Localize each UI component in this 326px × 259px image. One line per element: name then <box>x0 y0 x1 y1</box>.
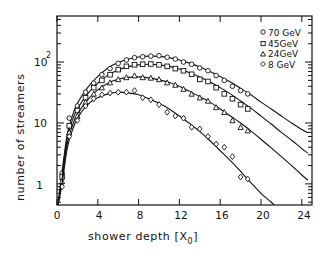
data-point <box>108 90 113 96</box>
fit-curve <box>58 92 274 205</box>
data-point <box>108 66 113 71</box>
chart: 1 10 10 2 0 4 8 12 16 20 24 shower depth… <box>0 0 326 259</box>
data-point <box>91 85 96 90</box>
data-point <box>108 72 113 77</box>
data-point <box>189 62 194 67</box>
legend-item-45gev: 45GeV <box>261 39 299 49</box>
data-point <box>116 67 121 72</box>
data-point <box>206 68 211 73</box>
x-tick-label: 20 <box>256 209 269 221</box>
y-tick-label-1: 1 <box>36 179 43 191</box>
x-tick-label: 24 <box>297 209 311 221</box>
data-point <box>173 57 178 62</box>
data-point <box>222 78 227 83</box>
data-point <box>205 98 210 103</box>
data-point <box>67 116 72 121</box>
data-point <box>116 89 121 95</box>
data-point <box>245 92 250 97</box>
data-point <box>206 134 211 140</box>
y-axis-label: number of streamers <box>14 74 27 202</box>
data-point <box>173 66 178 71</box>
data-point <box>132 63 137 68</box>
data-point <box>100 72 105 77</box>
data-point <box>222 92 227 97</box>
data-point <box>230 96 235 101</box>
data-point <box>124 89 129 95</box>
y-tick-label-10: 10 <box>34 117 47 129</box>
data-point <box>67 123 72 128</box>
legend-item-24gev: 24GeV <box>261 49 299 59</box>
series-70gev <box>58 53 308 205</box>
legend: 70 GeV 45GeV 24GeV 8 GeV <box>261 28 302 70</box>
data-point <box>198 66 203 71</box>
data-point <box>198 77 203 82</box>
data-point <box>140 54 145 59</box>
x-tick-label: 0 <box>54 209 61 221</box>
data-point <box>230 154 235 160</box>
data-point <box>157 63 162 68</box>
data-point <box>214 141 219 147</box>
x-tick-label: 4 <box>96 209 103 221</box>
legend-label: 70 GeV <box>268 28 302 38</box>
legend-item-8gev: 8 GeV <box>261 60 297 70</box>
data-point <box>124 58 129 63</box>
data-point <box>149 62 154 67</box>
data-point <box>230 84 235 89</box>
data-point <box>189 124 194 130</box>
data-point <box>238 174 243 180</box>
data-point <box>206 79 211 84</box>
x-tick-label: 8 <box>137 209 144 221</box>
x-tick-label: 16 <box>215 209 229 221</box>
legend-label: 45GeV <box>268 39 299 49</box>
circle-marker-icon <box>261 30 265 34</box>
y-tick-label-100-exponent: 2 <box>46 51 51 60</box>
data-point <box>124 64 129 69</box>
legend-label: 8 GeV <box>268 60 296 70</box>
data-point <box>165 55 170 60</box>
triangle-marker-icon <box>261 52 266 57</box>
data-point <box>238 88 243 93</box>
data-point <box>245 107 250 112</box>
series-24gev <box>58 73 308 205</box>
square-marker-icon <box>261 42 265 46</box>
data-point <box>107 80 112 85</box>
diamond-marker-icon <box>261 62 266 67</box>
legend-label: 24GeV <box>268 49 299 59</box>
x-axis-label: shower depth [X0] <box>88 230 198 246</box>
fit-curve <box>58 56 308 205</box>
data-point <box>238 125 243 130</box>
data-point <box>140 62 145 67</box>
data-point <box>222 144 227 150</box>
data-point <box>149 54 154 59</box>
plot-area <box>58 53 308 205</box>
data-point <box>181 68 186 73</box>
data-point <box>149 97 154 103</box>
data-point <box>165 109 170 115</box>
data-point <box>132 88 137 94</box>
data-point <box>157 53 162 58</box>
legend-item-70gev: 70 GeV <box>261 28 302 38</box>
data-point <box>181 60 186 65</box>
x-tick-label: 12 <box>174 209 187 221</box>
data-point <box>100 78 105 83</box>
data-point <box>214 73 219 78</box>
data-point <box>132 73 137 78</box>
data-point <box>132 55 137 60</box>
data-point <box>165 64 170 69</box>
x-tick-labels: 0 4 8 12 16 20 24 <box>54 209 311 221</box>
data-point <box>116 61 121 66</box>
data-point <box>238 102 243 107</box>
data-point <box>214 85 219 90</box>
data-point <box>189 72 194 77</box>
